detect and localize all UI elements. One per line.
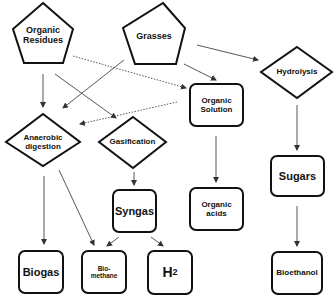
anaerobic-line2: digestion — [25, 142, 61, 151]
biogas-label: Biogas — [19, 251, 63, 293]
edge-syngas-biomethane — [107, 237, 119, 246]
organic-acids-label: Organic acids — [190, 188, 243, 230]
organic-residues-line2: Residues — [23, 35, 63, 45]
h2-text: H — [162, 264, 172, 280]
hydrolysis-text: Hydrolysis — [277, 67, 318, 76]
h2-label: H2 — [148, 251, 192, 294]
syngas-label: Syngas — [113, 190, 156, 232]
edge-residues-gasification — [55, 74, 116, 118]
gasification-label: Gasification — [99, 135, 166, 149]
biomethane-line1: Bio- — [98, 265, 111, 272]
sugars-label: Sugars — [271, 156, 324, 196]
edge-grasses-anaerobic — [63, 60, 124, 108]
organic-residues-line1: Organic — [26, 25, 60, 35]
organic-solution-line2: Solution — [201, 105, 233, 114]
bioethanol-label: Bioethanol — [272, 252, 322, 294]
organic-solution-label: Organic Solution — [190, 84, 243, 126]
organic-residues-label: Organic Residues — [13, 20, 73, 50]
edge-anaerobic-biomethane — [59, 170, 94, 245]
organic-acids-line2: acids — [206, 209, 226, 218]
edge-syngas-h2 — [151, 237, 163, 246]
anaerobic-line1: Anaerobic — [23, 133, 62, 142]
biomethane-line2: methane — [91, 272, 118, 279]
biomethane-label: Bio- methane — [82, 251, 126, 293]
hydrolysis-label: Hydrolysis — [261, 65, 333, 79]
gasification-text: Gasification — [110, 137, 156, 146]
edge-grasses-hydrolysis — [197, 45, 258, 60]
anaerobic-digestion-label: Anaerobic digestion — [8, 128, 78, 156]
bioethanol-text: Bioethanol — [276, 268, 317, 277]
sugars-text: Sugars — [279, 170, 316, 183]
edge-grasses-organic-solution — [184, 64, 216, 80]
syngas-text: Syngas — [115, 205, 154, 218]
organic-solution-line1: Organic — [201, 96, 231, 105]
organic-acids-line1: Organic — [201, 200, 231, 209]
grasses-label: Grasses — [123, 28, 185, 44]
grasses-text: Grasses — [136, 31, 172, 41]
h2-subscript: 2 — [173, 267, 178, 277]
biogas-text: Biogas — [23, 266, 60, 279]
